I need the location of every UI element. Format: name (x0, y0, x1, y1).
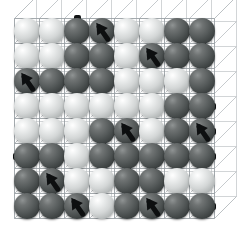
lattice-site-vacant (89, 93, 115, 119)
lattice-site-occupied (164, 93, 190, 119)
lattice-site-occupied (64, 43, 90, 69)
lattice-site-vacant (164, 168, 190, 194)
lattice-site-vacant (64, 93, 90, 119)
lattice-site-vacant (114, 68, 140, 94)
lattice-site-vacant (139, 93, 165, 119)
lattice-site-vacant (89, 168, 115, 194)
lattice-site-occupied (164, 18, 190, 44)
lattice-site-vacant (39, 18, 65, 44)
lattice-site-occupied (89, 143, 115, 169)
lattice-site-occupied (139, 143, 165, 169)
lattice-site-occupied (14, 143, 40, 169)
lattice-site-vacant (14, 118, 40, 144)
lattice-site-vacant (39, 43, 65, 69)
lattice-site-occupied (89, 68, 115, 94)
lattice-site-vacant (64, 118, 90, 144)
lattice-site-vacant (189, 168, 215, 194)
lattice-site-occupied (189, 43, 215, 69)
lattice-site-occupied (114, 168, 140, 194)
lattice-site-occupied (189, 18, 215, 44)
lattice-site-vacant (14, 18, 40, 44)
lattice-site-occupied (64, 68, 90, 94)
lattice-site-vacant (39, 118, 65, 144)
lattice-site-vacant (64, 143, 90, 169)
lattice-site-occupied (189, 193, 215, 219)
lattice-site-occupied (189, 68, 215, 94)
lattice-site-vacant (164, 68, 190, 94)
lattice-site-occupied (14, 193, 40, 219)
lattice-figure (0, 0, 252, 250)
lattice-site-vacant (39, 93, 65, 119)
lattice-site-occupied (164, 143, 190, 169)
